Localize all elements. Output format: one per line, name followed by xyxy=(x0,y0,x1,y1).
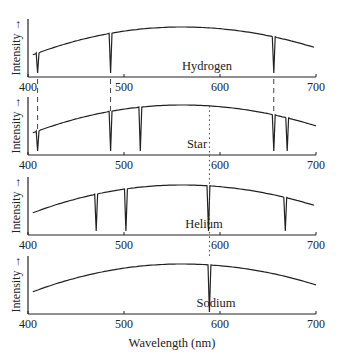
x-tick-label: 600 xyxy=(211,80,229,94)
panel-label: Hydrogen xyxy=(182,59,233,73)
x-tick-label: 400 xyxy=(19,317,37,331)
spectrum-curve xyxy=(33,27,314,73)
y-axis-label: Intensity → xyxy=(9,19,23,76)
panel-label: Star xyxy=(187,137,208,151)
y-axis-label: Intensity → xyxy=(9,97,23,154)
x-tick-label: 500 xyxy=(115,317,133,331)
panel-sodium: Intensity →400500600700Sodium xyxy=(9,256,325,332)
x-tick-label: 600 xyxy=(211,158,229,172)
x-tick-label: 700 xyxy=(307,158,325,172)
spectrum-curve xyxy=(33,105,316,151)
x-tick-label: 400 xyxy=(19,80,37,94)
panel-label: Helium xyxy=(185,217,223,231)
x-tick-label: 700 xyxy=(307,317,325,331)
x-tick-label: 600 xyxy=(211,238,229,252)
panel-label: Sodium xyxy=(197,296,236,310)
x-tick-label: 700 xyxy=(307,80,325,94)
panel-hydrogen: Intensity →400500600700Hydrogen xyxy=(9,19,325,95)
x-axis-label: Wavelength (nm) xyxy=(129,336,216,350)
panel-star: Intensity →400500600700Star xyxy=(9,97,325,173)
spectra-chart: Intensity →400500600700HydrogenIntensity… xyxy=(0,0,337,359)
x-tick-label: 500 xyxy=(115,238,133,252)
spectrum-curve xyxy=(33,264,316,312)
x-tick-label: 500 xyxy=(115,80,133,94)
spectrum-curve xyxy=(33,185,314,231)
x-tick-label: 400 xyxy=(19,158,37,172)
y-axis-label: Intensity → xyxy=(9,177,23,234)
panel-helium: Intensity →400500600700Helium xyxy=(9,177,325,253)
x-tick-label: 500 xyxy=(115,158,133,172)
y-axis-label: Intensity → xyxy=(9,256,23,313)
x-tick-label: 400 xyxy=(19,238,37,252)
x-tick-label: 700 xyxy=(307,238,325,252)
x-tick-label: 600 xyxy=(211,317,229,331)
